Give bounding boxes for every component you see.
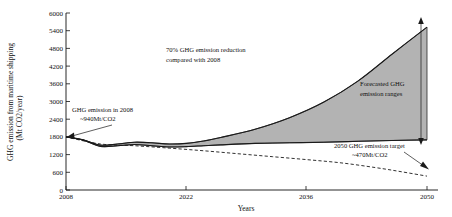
x-tick-label: 2036 xyxy=(299,193,314,201)
annotation-line: ~940Mt/CO2 xyxy=(80,115,115,122)
y-axis-title-line1: GHG emission from maritime shipping xyxy=(6,43,15,161)
y-tick-label: 4200 xyxy=(49,63,64,71)
y-tick-label: 1200 xyxy=(49,151,64,159)
annotation-line: compared with 2008 xyxy=(166,56,221,63)
x-tick-label: 2022 xyxy=(179,193,194,201)
y-tick-label: 4800 xyxy=(49,45,64,53)
annotation-line: ~470Mt/CO2 xyxy=(352,151,387,158)
chart-svg: 0 600 1200 1800 2400 3000 3600 4200 4800… xyxy=(0,0,452,217)
y-tick-label: 1800 xyxy=(49,133,64,141)
annotation-line: emission ranges xyxy=(360,90,403,97)
annotation-line: Forecasted GHG xyxy=(360,80,405,87)
y-tick-label: 600 xyxy=(53,169,64,177)
y-tick-label: 3000 xyxy=(49,98,64,106)
y-tick-label: 5400 xyxy=(49,27,64,35)
annotation-line: 2050 GHG emission target xyxy=(334,142,405,149)
annotation-line: GHG emission in 2008 xyxy=(72,106,134,113)
x-tick-label: 2050 xyxy=(420,193,435,201)
y-tick-label: 6000 xyxy=(49,10,64,18)
y-tick-label: 2400 xyxy=(49,116,64,124)
y-tick-label: 3600 xyxy=(49,80,64,88)
chart-figure: 0 600 1200 1800 2400 3000 3600 4200 4800… xyxy=(0,0,452,217)
y-axis-title-line2: (Mt CO2/year) xyxy=(15,95,24,140)
x-tick-label: 2008 xyxy=(59,193,74,201)
x-axis-title: Years xyxy=(238,204,255,213)
annotation-line: 70% GHG emission reduction xyxy=(166,46,246,53)
